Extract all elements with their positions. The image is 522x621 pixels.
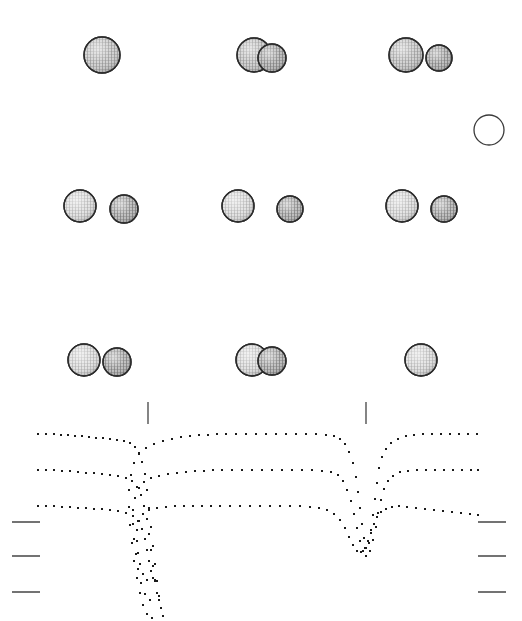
data-point [69,470,71,472]
data-point [53,433,55,435]
data-point [458,433,460,435]
data-point [146,579,148,581]
data-point [201,505,203,507]
data-point [359,540,361,542]
data-point [138,520,140,522]
data-point [101,473,103,475]
figure-root: Binary system configuration sequence wit… [0,0,522,621]
data-point [422,433,424,435]
data-point [143,505,145,507]
data-point [440,433,442,435]
data-point [61,470,63,472]
data-point [352,544,354,546]
data-point [117,510,119,512]
data-point [271,469,273,471]
data-point [148,560,150,562]
sphere-row2-col2-1 [222,190,254,222]
data-point [477,514,479,516]
data-point [385,508,387,510]
data-point [67,434,69,436]
data-point [85,507,87,509]
data-point [93,508,95,510]
data-point [141,461,143,463]
data-point [231,469,233,471]
data-point [174,505,176,507]
data-point [407,470,409,472]
sphere-row1-col1-1 [84,37,120,73]
data-point [146,613,148,615]
data-point [344,527,346,529]
data-point [376,516,378,518]
data-point [139,563,141,565]
data-point [241,469,243,471]
figure-background [0,0,522,621]
data-point [279,505,281,507]
data-point [37,469,39,471]
data-point [189,435,191,437]
data-point [93,472,95,474]
data-point [348,451,350,453]
data-point [156,580,158,582]
data-point [136,540,138,542]
data-point [299,505,301,507]
data-point [326,509,328,511]
data-point [424,508,426,510]
data-point [109,474,111,476]
data-point [183,505,185,507]
data-point [377,512,379,514]
data-point [137,552,139,554]
data-point [150,477,152,479]
data-point [165,506,167,508]
data-point [265,433,267,435]
data-point [192,505,194,507]
sphere-row3-col1-1 [68,344,100,376]
data-point [285,433,287,435]
data-point [249,505,251,507]
data-point [128,506,130,508]
data-point [207,434,209,436]
data-point [460,512,462,514]
sphere-row1-col3-1 [389,38,423,72]
data-point [140,582,142,584]
data-point [144,593,146,595]
data-point [133,560,135,562]
sphere-row2-col2-2 [277,196,303,222]
data-point [391,506,393,508]
data-point [117,475,119,477]
data-point [37,433,39,435]
data-point [369,550,371,552]
data-point [53,469,55,471]
data-point [156,592,158,594]
data-point [109,438,111,440]
data-point [45,505,47,507]
data-point [136,577,138,579]
data-point [315,433,317,435]
data-point [477,469,479,471]
data-point [37,505,39,507]
data-point [339,519,341,521]
data-point [357,491,359,493]
data-point [162,440,164,442]
data-point [443,469,445,471]
data-point [210,505,212,507]
data-point [129,442,131,444]
data-point [146,518,148,520]
data-point [134,497,136,499]
data-point [397,438,399,440]
data-point [399,471,401,473]
data-point [375,526,377,528]
data-point [142,573,144,575]
data-point [198,434,200,436]
data-point [146,549,148,551]
data-point [374,498,376,500]
data-point [60,434,62,436]
data-point [390,442,392,444]
data-point [144,473,146,475]
data-point [212,469,214,471]
data-point [372,539,374,541]
data-point [363,537,365,539]
data-point [125,512,127,514]
data-point [355,476,357,478]
data-point [81,435,83,437]
data-point [333,513,335,515]
